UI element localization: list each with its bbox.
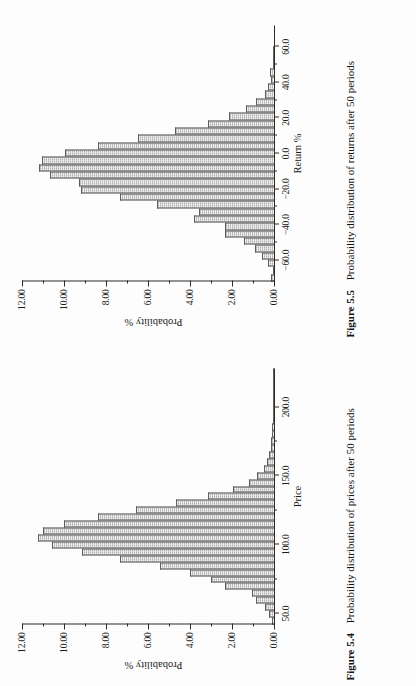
figure-5-4-x-tick — [274, 543, 279, 544]
figure-5-5-x-tick — [274, 152, 279, 153]
figure-5-4-y-tick-label: 6.00 — [143, 632, 153, 648]
bar — [249, 479, 274, 486]
figure-5-4-y-tick-label: 8.00 — [101, 632, 111, 648]
bar — [98, 513, 274, 520]
bar — [255, 244, 274, 251]
figure-5-5-x-axis-title: Return % — [292, 25, 303, 281]
figure-5-5-y-tick-label: 12.00 — [17, 289, 27, 309]
figure-5-5-y-tick-minor — [43, 280, 44, 283]
figure-5-4-x-tick-minor — [274, 440, 277, 441]
figure-5-5-x-tick — [274, 188, 279, 189]
figure-5-5-x-tick-label: −40.0 — [281, 214, 291, 235]
bar — [120, 555, 274, 562]
figure-5-4-y-tick-minor — [127, 623, 128, 626]
figure-5-5-x-tick-minor — [274, 241, 277, 242]
figure-5-4-x-axis: 50.0100.0150.0200.0 — [274, 368, 275, 624]
figure-5-5-bar-series — [22, 25, 274, 281]
figure-5-4-x-tick — [274, 474, 279, 475]
bar — [225, 222, 274, 229]
figure-5-4-x-tick — [274, 612, 279, 613]
figure-5-5-y-tick-minor — [211, 280, 212, 283]
bar — [120, 193, 274, 200]
figure-5-4-y-tick-label: 2.00 — [227, 632, 237, 648]
figure-5-5-caption: Figure 5.5 Probability distribution of r… — [344, 4, 356, 337]
figure-5-4-y-tick-label: 0.00 — [269, 632, 279, 648]
figure-5-4-caption: Figure 5.4 Probability distribution of p… — [344, 347, 356, 680]
bar — [160, 562, 274, 569]
figure-5-5-x-tick-label: 40.0 — [281, 74, 291, 90]
figure-5-5-y-tick — [64, 280, 65, 286]
bar — [225, 582, 274, 589]
figure-5-4-x-axis-title: Price — [292, 368, 303, 624]
figure-5-5-y-tick-label: 10.00 — [59, 289, 69, 309]
figure-5-5-x-tick-label: −20.0 — [281, 178, 291, 199]
figure-5-4-y-tick — [190, 623, 191, 629]
figure-5-5-block: 0.002.004.006.008.0010.0012.00 −60.0−40.… — [0, 0, 416, 343]
figure-5-5-x-tick — [274, 116, 279, 117]
figure-5-4-y-tick-label: 10.00 — [59, 632, 69, 652]
figure-5-5-x-axis: −60.0−40.0−20.00.020.040.060.0 — [274, 25, 275, 281]
figure-5-5-x-tick-label: 0.0 — [281, 147, 291, 158]
bar — [175, 127, 274, 134]
bar — [233, 486, 274, 493]
bar — [176, 499, 274, 506]
figure-5-5-y-tick-label: 6.00 — [143, 289, 153, 305]
bar — [265, 90, 274, 97]
bar — [38, 534, 274, 541]
bar — [136, 506, 274, 513]
bar — [199, 208, 274, 215]
bar — [79, 178, 274, 185]
figure-5-5-x-tick — [274, 259, 279, 260]
bar — [81, 186, 274, 193]
figure-5-4-y-tick-label: 12.00 — [17, 632, 27, 652]
bar — [43, 527, 274, 534]
figure-5-5-x-tick — [274, 223, 279, 224]
figure-5-4-x-tick-label: 200.0 — [281, 396, 291, 416]
figure-5-5-plot-area — [22, 25, 274, 281]
bar — [256, 596, 274, 603]
bar — [225, 230, 274, 237]
bar — [50, 171, 274, 178]
figure-5-4-plot-area — [22, 368, 274, 624]
bar — [190, 569, 274, 576]
figure-5-5-x-tick-minor — [274, 134, 277, 135]
bar — [82, 548, 274, 555]
figure-5-5-x-tick-label: 60.0 — [281, 38, 291, 54]
figure-5-5-x-tick-minor — [274, 99, 277, 100]
figure-5-4-x-tick-label: 150.0 — [281, 465, 291, 485]
figure-5-4-y-tick-minor — [253, 623, 254, 626]
bar — [65, 149, 274, 156]
figure-5-5-rotation-wrapper: 0.002.004.006.008.0010.0012.00 −60.0−40.… — [0, 0, 416, 343]
figure-page: 0.002.004.006.008.0010.0012.00 −60.0−40.… — [0, 0, 416, 686]
figure-5-5-y-tick-minor — [169, 280, 170, 283]
figure-5-4-x-tick-minor — [274, 578, 277, 579]
bar — [252, 589, 274, 596]
bar — [262, 252, 274, 259]
figure-5-5-caption-text: Probability distribution of returns afte… — [344, 60, 356, 279]
figure-5-4-y-tick — [232, 623, 233, 629]
figure-5-4-y-tick — [148, 623, 149, 629]
figure-5-4-x-tick-label: 100.0 — [281, 534, 291, 554]
bar — [194, 215, 274, 222]
figure-5-5-y-tick — [106, 280, 107, 286]
figure-5-5-y-tick — [148, 280, 149, 286]
bar — [208, 492, 274, 499]
figure-5-4-y-tick — [106, 623, 107, 629]
figure-5-5-figure: 0.002.004.006.008.0010.0012.00 −60.0−40.… — [0, 0, 416, 343]
figure-5-5-x-tick-minor — [274, 63, 277, 64]
bar — [39, 164, 274, 171]
figure-5-5-x-tick-minor — [274, 205, 277, 206]
figure-5-5-x-tick-label: 20.0 — [281, 110, 291, 126]
figure-5-4-y-tick — [64, 623, 65, 629]
figure-5-4-y-tick-minor — [169, 623, 170, 626]
bar — [98, 142, 274, 149]
figure-5-5-y-axis-title: Probability % — [94, 317, 214, 328]
bar — [256, 98, 274, 105]
figure-5-5-y-tick-minor — [85, 280, 86, 283]
figure-5-4-y-tick-label: 4.00 — [185, 632, 195, 648]
figure-5-4-caption-text: Probability distribution of prices after… — [344, 408, 356, 623]
figure-5-4-y-axis-title: Probability % — [94, 660, 214, 671]
bar — [246, 105, 274, 112]
figure-5-5-x-tick-label: −60.0 — [281, 249, 291, 270]
bar — [244, 237, 274, 244]
